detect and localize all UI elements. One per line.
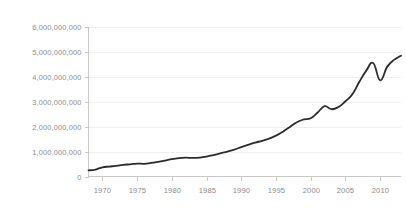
- x-tick-label: 1970: [94, 186, 112, 195]
- y-tick-label: 2,000,000,000: [32, 123, 81, 132]
- x-tick-label: 2010: [372, 186, 390, 195]
- y-tick-label: 4,000,000,000: [32, 73, 81, 82]
- x-tick-label: 1980: [164, 186, 182, 195]
- chart-canvas: 01,000,000,0002,000,000,0003,000,000,000…: [0, 0, 406, 219]
- y-tick-label: 3,000,000,000: [32, 98, 81, 107]
- line-chart: 01,000,000,0002,000,000,0003,000,000,000…: [0, 0, 406, 219]
- y-tick-label: 6,000,000,000: [32, 23, 81, 32]
- x-tick-label: 2000: [303, 186, 321, 195]
- x-tick-label: 1990: [233, 186, 251, 195]
- x-tick-label: 1985: [199, 186, 217, 195]
- y-tick-label: 0: [77, 173, 81, 182]
- y-tick-label: 1,000,000,000: [32, 148, 81, 157]
- x-tick-label: 2005: [337, 186, 355, 195]
- x-tick-label: 1995: [268, 186, 286, 195]
- x-axis-tick-labels: 197019751980198519901995200020052010: [94, 186, 390, 195]
- x-tick-label: 1975: [129, 186, 147, 195]
- y-tick-label: 5,000,000,000: [32, 48, 81, 57]
